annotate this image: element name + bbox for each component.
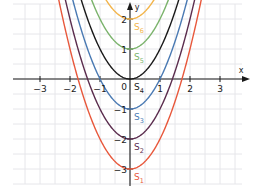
x-axis-label: x [239,66,244,75]
y-tick-label: 1 [121,45,127,55]
y-tick-label: −1 [114,105,127,115]
y-tick-label: −3 [114,165,127,175]
y-axis-label: y [135,3,140,12]
curve-label-s3: S3 [134,112,144,125]
grid [13,4,242,184]
curve-label-s6: S6 [134,22,144,35]
x-tick-label: 2 [187,84,193,94]
origin-label: 0 [121,82,127,92]
x-tick-label: −1 [93,84,106,94]
curve-label-s4: S4 [134,82,144,95]
curve-label-s2: S2 [134,142,144,155]
curve-label-s1: S1 [134,172,144,185]
x-tick-label: 1 [157,84,163,94]
x-tick-label: −2 [63,84,76,94]
y-tick-label: 2 [121,15,127,25]
y-tick-label: −2 [114,135,127,145]
curve-label-s5: S5 [134,52,144,65]
y-axis-arrow-icon [127,2,133,10]
parabola-diagram: −3−2−112321−1−2−30xyS1S2S3S4S5S6 [0,0,257,192]
x-tick-label: 3 [217,84,223,94]
x-axis-arrow-icon [242,76,250,82]
x-tick-label: −3 [33,84,46,94]
